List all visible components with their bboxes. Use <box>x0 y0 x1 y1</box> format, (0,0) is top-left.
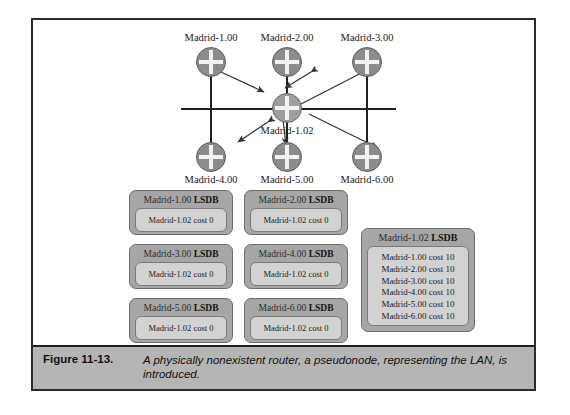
router-madrid-2-00[interactable]: Madrid-2.00 <box>272 47 302 77</box>
lsdb-suffix: LSDB <box>309 303 334 313</box>
stem-madrid-4-00 <box>210 108 212 144</box>
figure-caption-text: A physically nonexistent router, a pseud… <box>143 353 526 381</box>
lsdb-entries: Madrid-1.02 cost 0 <box>135 208 227 232</box>
router-icon <box>196 142 226 172</box>
lsdb-title: Madrid-1.00 LSDB <box>135 194 227 206</box>
lsdb-title: Madrid-5.00 LSDB <box>135 302 227 314</box>
lsdb-entries: Madrid-1.02 cost 0 <box>250 316 342 340</box>
lsdb-title: Madrid-4.00 LSDB <box>250 248 342 260</box>
lsdb-madrid-4-00[interactable]: Madrid-4.00 LSDB Madrid-1.02 cost 0 <box>244 244 348 289</box>
pseudonode-madrid-1-02[interactable]: Madrid-1.02 <box>272 93 302 123</box>
lsdb-entry: Madrid-6.00 cost 10 <box>370 311 466 323</box>
lsdb-entry: Madrid-1.02 cost 0 <box>264 323 329 334</box>
lsdb-entry: Madrid-1.02 cost 0 <box>264 215 329 226</box>
lsdb-owner: Madrid-4.00 <box>259 249 307 259</box>
lsdb-entry: Madrid-1.02 cost 0 <box>149 269 214 280</box>
router-label: Madrid-3.00 <box>312 32 422 43</box>
router-label: Madrid-6.00 <box>312 174 422 185</box>
lsdb-entries: Madrid-1.02 cost 0 <box>250 208 342 232</box>
lsdb-madrid-6-00[interactable]: Madrid-6.00 LSDB Madrid-1.02 cost 0 <box>244 298 348 343</box>
lsdb-title: Madrid-2.00 LSDB <box>250 194 342 206</box>
lsdb-owner: Madrid-5.00 <box>144 303 192 313</box>
router-madrid-4-00[interactable]: Madrid-4.00 <box>196 142 226 172</box>
stem-madrid-3-00 <box>366 75 368 109</box>
network-topology-diagram: Madrid-1.00 Madrid-2.00 Madrid-3.00 Madr… <box>33 20 534 190</box>
lsdb-madrid-1-02[interactable]: Madrid-1.02 LSDB Madrid-1.00 cost 10 Mad… <box>361 228 475 332</box>
lsdb-entry: Madrid-1.02 cost 0 <box>264 269 329 280</box>
lsdb-entry: Madrid-5.00 cost 10 <box>370 299 466 311</box>
lsdb-owner: Madrid-6.00 <box>259 303 307 313</box>
lsdb-madrid-1-00[interactable]: Madrid-1.00 LSDB Madrid-1.02 cost 0 <box>129 190 233 235</box>
lsdb-title: Madrid-6.00 LSDB <box>250 302 342 314</box>
lsdb-entry: Madrid-1.00 cost 10 <box>370 252 466 264</box>
router-icon <box>352 47 382 77</box>
router-madrid-1-00[interactable]: Madrid-1.00 <box>196 47 226 77</box>
lsdb-suffix: LSDB <box>309 249 334 259</box>
lsdb-owner: Madrid-1.02 <box>379 232 429 243</box>
router-icon <box>272 93 302 123</box>
lsdb-entries: Madrid-1.02 cost 0 <box>135 262 227 286</box>
figure-caption-bar: Figure 11-13. A physically nonexistent r… <box>33 345 534 389</box>
stem-madrid-1-00 <box>210 75 212 109</box>
lsdb-madrid-2-00[interactable]: Madrid-2.00 LSDB Madrid-1.02 cost 0 <box>244 190 348 235</box>
lsdb-madrid-5-00[interactable]: Madrid-5.00 LSDB Madrid-1.02 cost 0 <box>129 298 233 343</box>
lsdb-entry: Madrid-1.02 cost 0 <box>149 215 214 226</box>
lsdb-suffix: LSDB <box>194 303 219 313</box>
lsdb-entry: Madrid-2.00 cost 10 <box>370 264 466 276</box>
lsdb-entries: Madrid-1.02 cost 0 <box>135 316 227 340</box>
lsdb-suffix: LSDB <box>309 195 334 205</box>
router-madrid-6-00[interactable]: Madrid-6.00 <box>352 142 382 172</box>
lsdb-suffix: LSDB <box>194 249 219 259</box>
lsdb-title: Madrid-1.02 LSDB <box>367 232 469 244</box>
lsdb-entries: Madrid-1.00 cost 10 Madrid-2.00 cost 10 … <box>367 246 469 326</box>
router-madrid-5-00[interactable]: Madrid-5.00 <box>272 142 302 172</box>
lsdb-owner: Madrid-2.00 <box>259 195 307 205</box>
pseudonode-label: Madrid-1.02 <box>232 125 342 136</box>
router-icon <box>196 47 226 77</box>
lsdb-suffix: LSDB <box>431 232 457 243</box>
lsdb-entry: Madrid-3.00 cost 10 <box>370 276 466 288</box>
router-madrid-3-00[interactable]: Madrid-3.00 <box>352 47 382 77</box>
figure-frame: Madrid-1.00 Madrid-2.00 Madrid-3.00 Madr… <box>31 18 536 391</box>
router-icon <box>352 142 382 172</box>
lsdb-entry: Madrid-4.00 cost 10 <box>370 287 466 299</box>
lsdb-owner: Madrid-1.00 <box>144 195 192 205</box>
lsdb-entries: Madrid-1.02 cost 0 <box>250 262 342 286</box>
router-icon <box>272 47 302 77</box>
lsdb-suffix: LSDB <box>194 195 219 205</box>
router-icon <box>272 142 302 172</box>
lsdb-owner: Madrid-3.00 <box>144 249 192 259</box>
lsdb-madrid-3-00[interactable]: Madrid-3.00 LSDB Madrid-1.02 cost 0 <box>129 244 233 289</box>
lsdb-collection: Madrid-1.00 LSDB Madrid-1.02 cost 0 Madr… <box>33 188 534 348</box>
figure-number: Figure 11-13. <box>43 353 143 365</box>
stem-madrid-6-00 <box>366 108 368 144</box>
lsdb-entry: Madrid-1.02 cost 0 <box>149 323 214 334</box>
lsdb-title: Madrid-3.00 LSDB <box>135 248 227 260</box>
